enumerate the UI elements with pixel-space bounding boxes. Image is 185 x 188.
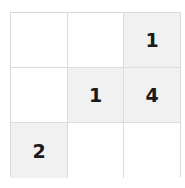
cell-r2-c0[interactable]: 2 <box>11 123 68 178</box>
cell-r0-c2[interactable]: 1 <box>124 13 180 68</box>
puzzle-grid: 1 1 4 2 <box>10 12 181 177</box>
cell-r2-c1[interactable] <box>68 123 124 178</box>
cell-r0-c1[interactable] <box>68 13 124 68</box>
cell-r1-c2[interactable]: 4 <box>124 68 180 123</box>
cell-r1-c0[interactable] <box>11 68 68 123</box>
cell-r2-c2[interactable] <box>124 123 180 178</box>
cell-r1-c1[interactable]: 1 <box>68 68 124 123</box>
cell-r0-c0[interactable] <box>11 13 68 68</box>
